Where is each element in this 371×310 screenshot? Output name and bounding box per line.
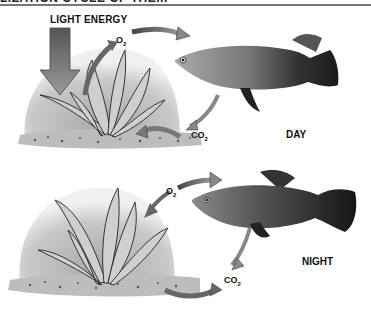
night-o2-fish-arrowhead-icon (210, 172, 222, 188)
day-o2-subscript: 2 (123, 41, 126, 47)
night-co2-arrow-from-fish (232, 228, 250, 265)
night-panel (8, 170, 356, 296)
day-o2-arrowhead-icon (176, 27, 190, 40)
day-co2-label: CO2 (191, 130, 208, 142)
night-label: NIGHT (302, 256, 333, 267)
night-o2-arrow-to-fish (178, 180, 212, 188)
day-label: DAY (286, 129, 306, 140)
day-o2-base: O (116, 35, 123, 45)
day-o2-label: O2 (116, 35, 126, 47)
night-o2-subscript: 2 (173, 192, 176, 198)
night-o2-base: O (166, 186, 173, 196)
night-co2-base: CO (224, 275, 238, 285)
night-co2-label: CO2 (224, 275, 241, 287)
light-energy-label: LIGHT ENERGY (50, 14, 127, 25)
night-o2-label: O2 (166, 186, 176, 198)
day-co2-arrowhead-icon (186, 120, 198, 130)
night-co2-plant-arrowhead-icon (210, 283, 222, 296)
night-co2-subscript: 2 (238, 281, 241, 287)
day-co2-base: CO (191, 130, 205, 140)
day-co2-arrow-from-fish (190, 95, 218, 126)
day-co2-subscript: 2 (205, 136, 208, 142)
day-o2-arrow (132, 29, 180, 34)
day-fish-icon (175, 34, 338, 112)
